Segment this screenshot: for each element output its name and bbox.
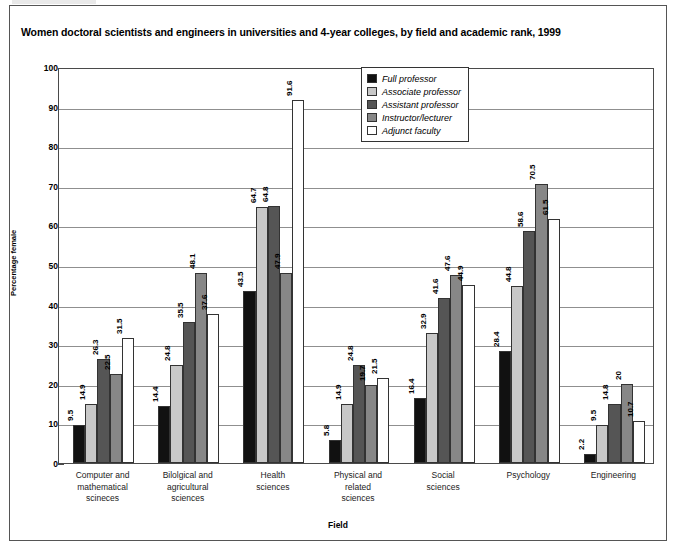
bar[interactable]: 44.8 [511,286,523,463]
bar[interactable]: 5.8 [329,440,341,463]
x-category-label: Bilolgical andagriculturalsciences [145,470,230,505]
bar-value-label: 14.9 [334,384,343,400]
legend-swatch [367,126,377,135]
legend-label: Assistant professor [382,100,459,110]
bar-value-label: 19.7 [358,365,367,381]
bar[interactable]: 24.8 [170,365,182,463]
bar-value-label: 24.8 [163,345,172,361]
bar-value-label: 64.8 [261,187,270,203]
bar-value-label: 9.5 [66,410,75,421]
bar[interactable]: 35.5 [183,322,195,463]
bar-group: 43.564.764.847.991.6 [243,69,304,463]
bar-value-label: 44.9 [456,266,465,282]
bar-value-label: 35.5 [176,303,185,319]
legend-item[interactable]: Assistant professor [367,98,461,111]
legend-label: Instructor/lecturer [382,113,452,123]
bar[interactable]: 58.6 [523,231,535,463]
legend-item[interactable]: Full professor [367,72,461,85]
bar-value-label: 10.7 [626,401,635,417]
bar-value-label: 70.5 [528,164,537,180]
y-tick-label: 0 [24,459,58,469]
bar-group: 14.424.835.548.137.6 [158,69,219,463]
bar-value-label: 14.9 [78,384,87,400]
bar-value-label: 64.7 [249,187,258,203]
bar-value-label: 14.8 [601,385,610,401]
x-category-line: sciences [315,493,400,505]
x-category-label: Healthsciences [230,470,315,493]
legend-swatch [367,100,377,109]
bar[interactable]: 61.5 [548,219,560,463]
bar[interactable]: 14.8 [608,404,620,463]
bar[interactable]: 26.3 [97,359,109,463]
legend-item[interactable]: Associate professor [367,85,461,98]
bar[interactable]: 64.8 [268,206,280,463]
bar-value-label: 2.2 [577,439,586,450]
bar[interactable]: 43.5 [243,291,255,463]
bar[interactable]: 21.5 [377,378,389,463]
bar[interactable]: 9.5 [73,425,85,463]
bar-value-label: 26.3 [91,339,100,355]
legend-swatch [367,74,377,83]
bar-value-label: 48.1 [188,253,197,269]
legend-label: Adjunct faculty [382,126,441,136]
bar-value-label: 9.5 [589,410,598,421]
bar[interactable]: 16.4 [414,398,426,463]
page-title: Women doctoral scientists and engineers … [21,26,641,38]
bar-group: 2.29.514.82010.7 [584,69,645,463]
bar[interactable]: 28.4 [499,351,511,463]
bar[interactable]: 14.4 [158,406,170,463]
bar[interactable]: 37.6 [207,314,219,463]
legend-item[interactable]: Instructor/lecturer [367,111,461,124]
y-axis-title: Percentage female [9,230,18,296]
bar-value-label: 21.5 [370,358,379,374]
x-category-line: sciences [145,493,230,505]
bar-value-label: 91.6 [285,81,294,97]
bar[interactable]: 32.9 [426,333,438,463]
x-category-line: Health [230,470,315,482]
x-category-line: sciences [401,482,486,494]
bar-value-label: 20 [614,371,623,380]
legend-item[interactable]: Adjunct faculty [367,124,461,137]
figure-page: Women doctoral scientists and engineers … [0,0,676,547]
x-category-label: Engineering [571,470,656,482]
scan-artifact [12,0,96,4]
bar[interactable]: 44.9 [462,285,474,463]
bar-value-label: 28.4 [492,331,501,347]
bar[interactable]: 2.2 [584,454,596,463]
bar-value-label: 47.6 [443,255,452,271]
bar[interactable]: 64.7 [256,207,268,463]
y-tick-label: 100 [24,63,58,73]
bar[interactable]: 20 [621,384,633,463]
bar[interactable]: 10.7 [633,421,645,463]
bar[interactable]: 91.6 [292,100,304,463]
bar-value-label: 47.9 [273,254,282,270]
bar[interactable]: 19.7 [365,385,377,463]
bar[interactable]: 31.5 [122,338,134,463]
bar[interactable]: 22.5 [110,374,122,463]
y-tick-label: 50 [24,261,58,271]
bar-value-label: 5.8 [322,425,331,436]
x-category-line: agricultural [145,482,230,494]
x-category-line: Engineering [571,470,656,482]
legend-swatch [367,113,377,122]
bar-group: 9.514.926.322.531.5 [73,69,134,463]
bar[interactable]: 9.5 [596,425,608,463]
bar[interactable]: 14.9 [341,404,353,463]
bar-value-label: 43.5 [236,271,245,287]
bar[interactable]: 47.6 [450,275,462,463]
bar[interactable]: 14.9 [85,404,97,463]
x-category-line: scineces [60,493,145,505]
x-category-label: Physical andrelatedsciences [315,470,400,505]
x-category-line: mathematical [60,482,145,494]
legend-label: Associate professor [382,87,461,97]
bar-value-label: 61.5 [541,200,550,216]
bar-value-label: 22.5 [103,354,112,370]
x-category-line: Computer and [60,470,145,482]
bar[interactable]: 41.6 [438,298,450,463]
x-category-line: Psychology [486,470,571,482]
bar-value-label: 41.6 [431,279,440,295]
bar-value-label: 37.6 [200,295,209,311]
bar[interactable]: 70.5 [535,184,547,463]
y-tick-label: 70 [24,182,58,192]
bar[interactable]: 47.9 [280,273,292,463]
